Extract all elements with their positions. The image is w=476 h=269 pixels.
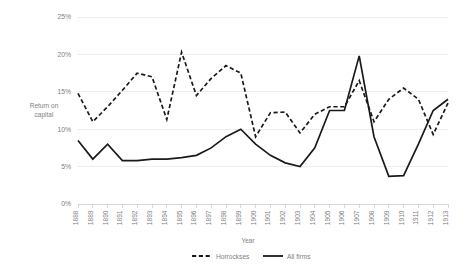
x-axis-tick-label: 1903 bbox=[294, 210, 301, 225]
x-axis-tick-label: 1904 bbox=[309, 210, 316, 225]
chart-container: 0%5%10%15%20%25% 18881889189018911892189… bbox=[0, 0, 476, 269]
series-line-horrockses bbox=[78, 52, 448, 137]
x-axis-tick-label: 1900 bbox=[250, 210, 257, 225]
y-axis-title-line1: Return on bbox=[30, 102, 59, 109]
x-axis-tick-label: 1907 bbox=[353, 210, 360, 225]
x-axis-tick-label: 1888 bbox=[72, 210, 79, 225]
x-axis-tick-label: 1910 bbox=[398, 210, 405, 225]
legend: Horrockses All firms bbox=[192, 253, 311, 260]
legend-item-horrockses[interactable]: Horrockses bbox=[192, 253, 250, 260]
x-axis-tick-label: 1911 bbox=[412, 210, 419, 225]
legend-label-all-firms: All firms bbox=[287, 253, 311, 260]
y-axis-tick-label: 0% bbox=[61, 200, 71, 207]
y-axis-tick-labels: 0%5%10%15%20%25% bbox=[57, 13, 71, 207]
series-line-all-firms bbox=[78, 56, 448, 176]
x-axis-tick-label: 1912 bbox=[427, 210, 434, 225]
x-axis-tick-label: 1898 bbox=[220, 210, 227, 225]
x-axis-tick-label: 1894 bbox=[161, 210, 168, 225]
legend-label-horrockses: Horrockses bbox=[216, 253, 250, 260]
x-axis-title: Year bbox=[241, 237, 255, 244]
x-axis-tick-label: 1896 bbox=[190, 210, 197, 225]
x-axis-tick-label: 1891 bbox=[116, 210, 123, 225]
y-axis-tick-label: 15% bbox=[57, 88, 71, 95]
x-axis-tick-label: 1906 bbox=[338, 210, 345, 225]
x-axis-tick-label: 1913 bbox=[442, 210, 449, 225]
x-axis-tick-label: 1899 bbox=[235, 210, 242, 225]
y-axis-tick-label: 25% bbox=[57, 13, 71, 20]
x-axis-tick-label: 1892 bbox=[131, 210, 138, 225]
return-on-capital-line-chart: 0%5%10%15%20%25% 18881889189018911892189… bbox=[0, 0, 476, 269]
data-series-layer bbox=[78, 52, 448, 176]
x-axis-tick-label: 1905 bbox=[324, 210, 331, 225]
y-axis-tick-label: 10% bbox=[57, 126, 71, 133]
x-axis-tick-label: 1889 bbox=[87, 210, 94, 225]
x-axis-tick-label: 1902 bbox=[279, 210, 286, 225]
x-axis-tick-label: 1893 bbox=[146, 210, 153, 225]
legend-item-all-firms[interactable]: All firms bbox=[263, 253, 311, 260]
x-axis-tick-label: 1897 bbox=[205, 210, 212, 225]
x-axis-tick-label: 1909 bbox=[383, 210, 390, 225]
x-axis-tick-label: 1890 bbox=[102, 210, 109, 225]
x-axis-tick-label: 1895 bbox=[176, 210, 183, 225]
x-axis-tick-labels: 1888188918901891189218931894189518961897… bbox=[72, 210, 449, 225]
y-axis-title-line2: capital bbox=[35, 111, 54, 119]
x-axis-tick-label: 1901 bbox=[264, 210, 271, 225]
x-axis-tick-label: 1908 bbox=[368, 210, 375, 225]
y-axis-tick-label: 20% bbox=[57, 51, 71, 58]
x-axis-tick-marks bbox=[78, 204, 448, 208]
y-axis-tick-label: 5% bbox=[61, 163, 71, 170]
